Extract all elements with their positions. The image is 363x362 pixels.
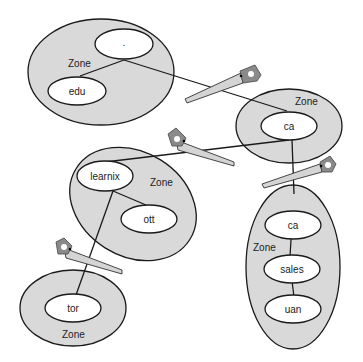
node-ott: ott — [121, 205, 177, 233]
svg-text:ca: ca — [288, 220, 299, 231]
svg-text:.: . — [123, 37, 126, 48]
zone-label: Zone — [68, 58, 91, 69]
svg-text:edu: edu — [69, 86, 86, 97]
saw-icon — [185, 65, 261, 103]
svg-text:uan: uan — [285, 304, 302, 315]
svg-text:ott: ott — [143, 214, 154, 225]
node-ca-top: ca — [261, 112, 317, 140]
node-ca-sub: ca — [265, 211, 321, 239]
svg-text:learnix: learnix — [90, 171, 119, 182]
svg-text:sales: sales — [280, 264, 303, 275]
zone-label: Zone — [150, 177, 173, 188]
zone-label: Zone — [62, 329, 85, 340]
zone-label: Zone — [253, 242, 276, 253]
svg-text:tor: tor — [67, 303, 79, 314]
node-root: . — [95, 29, 153, 59]
saw-icon — [168, 128, 234, 166]
node-edu: edu — [48, 77, 106, 105]
svg-text:ca: ca — [284, 121, 295, 132]
node-sales: sales — [264, 255, 320, 283]
node-uan: uan — [265, 295, 321, 323]
dns-zone-diagram: Zone Zone Zone Zone Zone — [0, 0, 363, 362]
node-learnix: learnix — [77, 161, 133, 191]
node-tor: tor — [45, 294, 101, 322]
zone-label: Zone — [295, 96, 318, 107]
